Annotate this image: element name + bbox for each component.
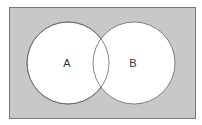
set-a-label: A: [63, 57, 71, 69]
venn-diagram: A B: [0, 0, 202, 125]
set-b-label: B: [129, 57, 136, 69]
